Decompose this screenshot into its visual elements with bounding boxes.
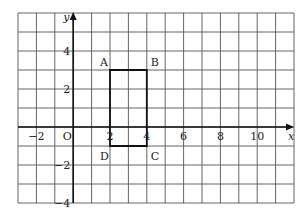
y-tick-label: −2 [54,159,70,172]
y-tick-label: −4 [54,197,70,210]
origin-label: O [63,130,72,143]
x-tick-label: 4 [143,130,150,143]
vertex-label-c: C [151,150,159,163]
x-tick-label: 6 [180,130,187,143]
grid-lines [18,13,294,203]
y-tick-label: 2 [63,83,70,96]
coordinate-grid: ABCD−224681042−2−4Oyx [0,0,308,214]
x-tick-label: 2 [107,130,114,143]
axis-labels: ABCD−224681042−2−4Oyx [28,11,295,210]
axes [18,12,294,203]
y-axis-label: y [62,11,70,24]
vertex-label-b: B [151,56,159,69]
x-tick-label: −2 [28,130,44,143]
x-axis-label: x [288,130,295,143]
x-tick-label: 8 [217,130,224,143]
x-tick-label: 10 [250,130,264,143]
y-tick-label: 4 [63,45,70,58]
vertex-label-a: A [99,56,109,69]
vertex-label-d: D [100,150,109,163]
